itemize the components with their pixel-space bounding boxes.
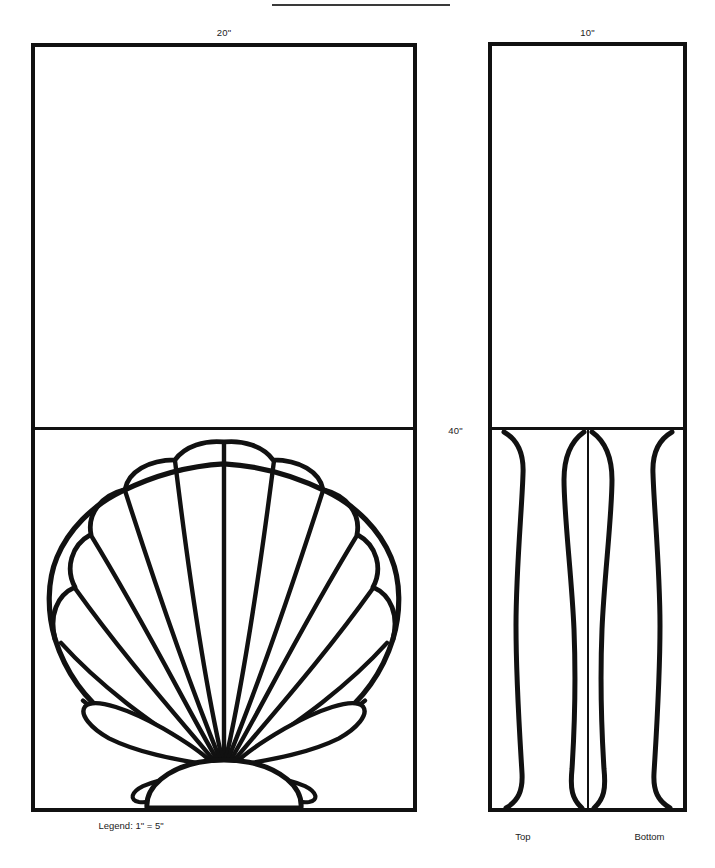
front-panel-shell-section bbox=[35, 430, 413, 808]
side-panel-ribs-section bbox=[492, 430, 683, 808]
side-rib-3 bbox=[592, 432, 612, 808]
dimension-label-height: 40" bbox=[424, 425, 487, 436]
side-rib-1 bbox=[504, 432, 523, 808]
front-panel-upper-blank-section bbox=[35, 47, 413, 427]
side-panel-upper-blank-section bbox=[492, 46, 683, 427]
dimension-label-front-width: 20" bbox=[31, 27, 417, 38]
drawing-sheet: 20" 10" 40" bbox=[0, 0, 715, 868]
side-panel-centre-rule bbox=[587, 430, 589, 808]
side-elevation-panel bbox=[488, 42, 687, 812]
front-elevation-panel bbox=[31, 43, 417, 812]
scallop-shell-front-view bbox=[35, 430, 413, 808]
header-rule bbox=[272, 4, 450, 6]
side-panel-label-bottom: Bottom bbox=[612, 831, 687, 842]
shell-hinge-dome bbox=[147, 760, 301, 808]
side-rib-2 bbox=[564, 432, 584, 808]
side-panel-label-top: Top bbox=[488, 831, 558, 842]
side-rib-4 bbox=[653, 432, 672, 808]
legend-caption: Legend: 1" = 5" bbox=[31, 820, 231, 831]
dimension-label-side-width: 10" bbox=[488, 27, 687, 38]
